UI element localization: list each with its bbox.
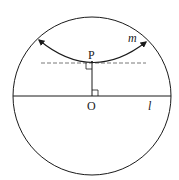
label-o: O [87, 100, 96, 112]
right-angle-marker-p [86, 63, 92, 69]
diagram-canvas: P O m l [0, 0, 179, 180]
geometry-figure [0, 0, 179, 180]
label-m: m [128, 32, 137, 44]
label-l: l [148, 100, 151, 112]
label-p: P [88, 49, 95, 61]
right-angle-marker-o [92, 90, 98, 96]
